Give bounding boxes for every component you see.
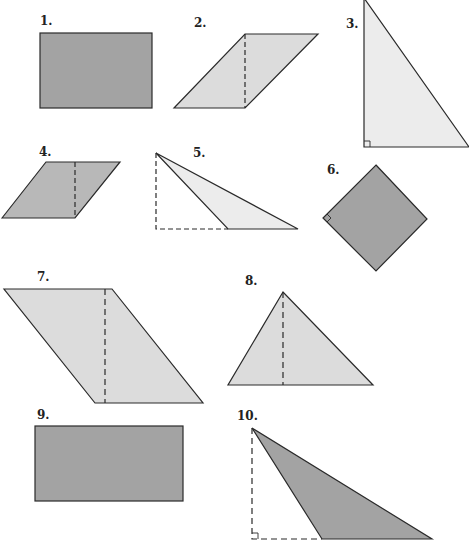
figure-7-parallelogram [4, 289, 203, 403]
figure-2-parallelogram [174, 34, 318, 108]
figure-4-parallelogram [2, 162, 120, 218]
figure-7-label: 7. [37, 271, 50, 283]
figure-10-label: 10. [237, 410, 258, 422]
figure-6-square [323, 165, 427, 271]
figure-9-rectangle [35, 426, 183, 501]
figure-3-label: 3. [346, 18, 359, 30]
figure-8-triangle [228, 292, 373, 385]
figure-9-label: 9. [37, 409, 50, 421]
right-angle-mark [252, 533, 258, 539]
figure-6-label: 6. [327, 164, 340, 176]
figure-3-right-triangle [364, 0, 469, 147]
figures-canvas [0, 0, 469, 543]
figure-8-label: 8. [245, 275, 258, 287]
figure-10-obtuse-triangle [252, 428, 432, 539]
figure-2-label: 2. [194, 17, 207, 29]
figure-5-obtuse-triangle [156, 153, 298, 229]
figure-1-rectangle [40, 33, 152, 108]
figure-4-label: 4. [39, 146, 52, 158]
figure-1-label: 1. [40, 15, 53, 27]
geometry-worksheet: 1. 2. 3. 4. 5. 6. 7. 8. 9. 10. [0, 0, 469, 543]
figure-5-label: 5. [193, 147, 206, 159]
